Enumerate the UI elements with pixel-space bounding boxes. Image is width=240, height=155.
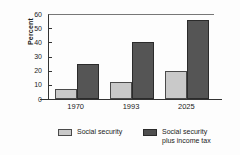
bar-group [49, 14, 104, 99]
plot-area [48, 14, 214, 99]
y-axis-tick-label: 50 [22, 25, 42, 32]
y-axis-tick-label: 40 [22, 39, 42, 46]
bar-chart-figure: Percent 0102030405060 197019932025 Socia… [0, 0, 240, 155]
x-axis-tick-label: 1970 [46, 102, 106, 111]
y-axis-tick-label: 20 [22, 67, 42, 74]
chart-legend: Social security Social security plus inc… [0, 127, 240, 151]
bar [110, 82, 132, 99]
x-axis-line [40, 99, 222, 100]
legend-label: Social security plus income tax [162, 128, 211, 145]
bar-group [104, 14, 159, 99]
legend-label: Social security [77, 128, 122, 137]
bar-group [160, 14, 215, 99]
legend-swatch-dark [143, 129, 157, 136]
y-axis-tick-label: 10 [22, 81, 42, 88]
x-axis-tick-label: 2025 [156, 102, 216, 111]
y-axis-tick-label: 0 [22, 96, 42, 103]
legend-swatch-light [58, 129, 72, 136]
x-axis-tick-label: 1993 [101, 102, 161, 111]
bar [132, 42, 154, 99]
bar [187, 20, 209, 99]
legend-item-social-security-plus-income-tax: Social security plus income tax [143, 128, 211, 145]
y-axis-tick-label: 30 [22, 53, 42, 60]
bar [165, 71, 187, 99]
bar [77, 64, 99, 99]
y-axis-tick-label: 60 [22, 11, 42, 18]
bar [55, 89, 77, 99]
legend-item-social-security: Social security [58, 128, 122, 137]
